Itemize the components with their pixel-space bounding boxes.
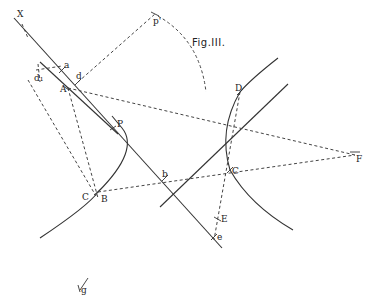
- geometric-figure: Fig.III. X a d₁ d A P C B b D C F E e p'…: [0, 0, 372, 304]
- dashed-X-tick: [22, 24, 28, 38]
- label-E: E: [221, 214, 228, 224]
- label-P: P: [117, 119, 123, 129]
- label-e: e: [217, 232, 222, 242]
- label-D: D: [235, 83, 242, 93]
- tick-g2: [78, 285, 80, 292]
- label-A: A: [59, 84, 67, 94]
- label-C-right: C: [232, 166, 239, 176]
- label-p-prime: p': [153, 16, 161, 26]
- tangent-line-D: [160, 84, 288, 207]
- label-a: a: [64, 60, 70, 70]
- label-X: X: [17, 9, 24, 19]
- hyperbola-left-branch: [40, 116, 127, 238]
- figure-title: Fig.III.: [192, 37, 225, 48]
- line-X-e: [14, 18, 222, 248]
- label-C-left: C: [82, 192, 89, 202]
- dashed-A-F: [68, 88, 355, 155]
- label-B: B: [101, 194, 108, 204]
- label-b: b: [162, 169, 168, 179]
- label-g: g: [81, 285, 87, 295]
- label-d1: d₁: [34, 73, 43, 83]
- dashed-A-B: [68, 88, 98, 198]
- dashed-B-F: [98, 155, 355, 192]
- dashed-d-p: [78, 14, 155, 82]
- label-F: F: [356, 154, 362, 164]
- dashed-arc: [158, 16, 206, 92]
- label-d: d: [76, 71, 82, 81]
- dashed-d1-a: [36, 66, 62, 70]
